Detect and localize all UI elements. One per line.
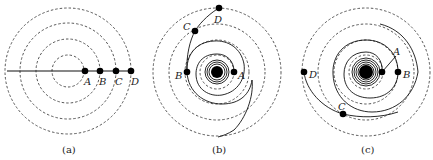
panel-a-label-D: D [130,76,139,87]
caption-a: (a) [62,144,76,155]
panel-a-point-D [128,68,135,75]
panel-c-point-A [379,69,386,76]
panel-a-label-B: B [98,76,106,87]
panel-b-point-B [184,69,191,76]
panel-c-point-B [395,69,402,76]
panel-a-label-C: C [115,76,123,87]
panel-b-label-C: C [183,21,191,32]
panel-b-point-C [192,28,199,35]
caption-b: (b) [212,144,226,155]
panel-a-point-C [113,68,120,75]
panel-b-point-D [216,5,223,12]
panel-b-label-A: A [237,70,245,81]
caption-c: (c) [361,144,375,155]
panel-b-core [211,66,223,78]
figure: A B C D A B C D A B C D (a) (b) (c) [0,0,433,160]
panel-c-label-D: D [308,69,317,80]
panel-a-point-B [97,68,104,75]
panel-b-label-D: D [213,14,222,25]
panel-c-core [359,65,373,79]
panel-c-label-C: C [338,101,346,112]
panel-b-label-B: B [174,70,182,81]
panel-a-label-A: A [83,76,91,87]
panel-c-label-B: B [402,69,410,80]
panel-a-point-A [82,68,89,75]
panel-c-point-D [301,69,308,76]
panel-b-point-A [231,69,238,76]
panel-c-label-A: A [392,46,400,57]
